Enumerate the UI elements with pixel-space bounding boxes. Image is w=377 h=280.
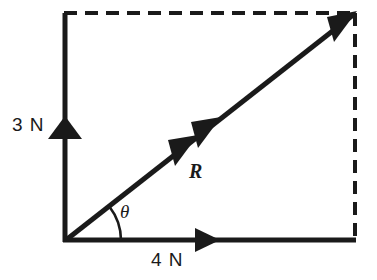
arrow-upright-icon-corner <box>327 11 357 42</box>
arrow-upright-icon-upper <box>191 117 221 148</box>
vector-diagram-canvas <box>0 0 377 280</box>
resultant-label: R <box>189 161 202 181</box>
vertical-force-label: 3 N <box>12 115 45 134</box>
vector-diagram-figure: 3 N 4 N R θ <box>0 0 377 280</box>
arrow-up-icon <box>48 116 82 139</box>
arrow-right-icon <box>195 228 220 252</box>
angle-label: θ <box>120 202 129 221</box>
horizontal-force-label: 4 N <box>151 250 184 269</box>
